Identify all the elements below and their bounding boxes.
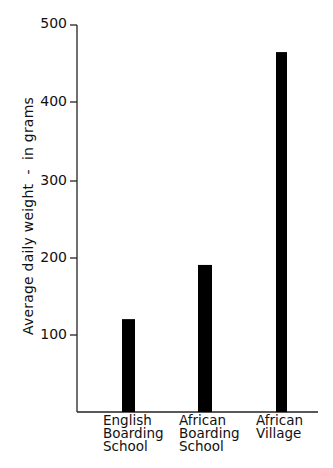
y-axis-label: Average daily weight - in grams [20, 97, 36, 335]
ytick-label-500: 500 [27, 15, 67, 31]
chart-canvas [0, 0, 333, 468]
bars [122, 52, 287, 412]
bar-african-boarding-school [198, 265, 212, 412]
ytick-label-400: 400 [27, 93, 67, 109]
y-ticks [70, 25, 77, 335]
ytick-label-200: 200 [27, 249, 67, 265]
ytick-label-100: 100 [27, 326, 67, 342]
bar-chart: Average daily weight - in grams 100 200 … [0, 0, 333, 468]
ytick-label-300: 300 [27, 172, 67, 188]
x-category-african-village: African Village [256, 414, 303, 440]
bar-african-village [276, 52, 287, 412]
bar-english-boarding-school [122, 319, 135, 412]
x-category-african-boarding-school: African Boarding School [179, 414, 240, 453]
x-category-english-boarding-school: English Boarding School [103, 414, 164, 453]
